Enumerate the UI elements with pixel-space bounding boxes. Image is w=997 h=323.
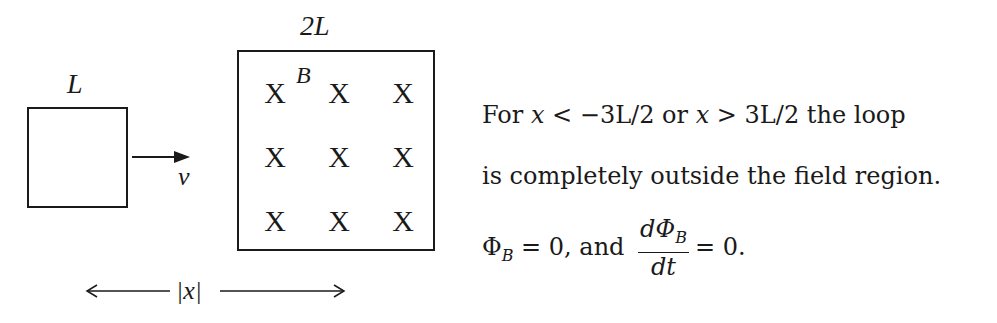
explanation-line-1: For x < −3L/2 or x > 3L/2 the loop [482,101,906,129]
field-label: B [296,63,311,87]
field-into-page-icon: X [260,206,290,236]
line1-cond2: > 3L/2 [709,101,807,129]
field-into-page-icon: X [324,206,354,236]
flux-symbol: Φ [482,233,502,261]
distance-arrow-left-icon [84,283,174,299]
conducting-loop [27,107,128,208]
explanation-line-3: ΦB = 0, and dΦBdt= 0. [482,215,746,286]
flux-subscript: B [502,246,514,265]
velocity-label: v [178,163,190,191]
distance-label: |x| [176,276,202,306]
explanation-line-2: is completely outside the field region. [482,162,941,190]
flux-derivative-fraction: dΦBdt [638,215,689,281]
field-into-page-icon: X [260,142,290,172]
line1-suffix: the loop [807,101,906,129]
field-into-page-icon: X [388,206,418,236]
line1-var2: x [696,101,710,129]
distance-label-text: |x| [176,276,202,305]
line1-cond1: < −3L/2 [544,101,662,129]
loop-side-label: L [67,70,83,98]
field-into-page-icon: X [324,78,354,108]
line1-prefix: For [482,101,531,129]
field-into-page-icon: X [388,142,418,172]
distance-arrow-right-icon [218,283,348,299]
line1-or: or [662,101,696,129]
field-region-side-label: 2L [300,12,330,40]
derivative-equals-text: = 0. [695,233,746,261]
fraction-numerator: dΦB [638,215,689,253]
field-into-page-icon: X [324,142,354,172]
field-into-page-icon: X [260,78,290,108]
field-into-page-icon: X [388,78,418,108]
fraction-denominator: dt [638,253,689,281]
flux-equals-text: = 0, and [513,233,632,261]
line1-var1: x [531,101,545,129]
